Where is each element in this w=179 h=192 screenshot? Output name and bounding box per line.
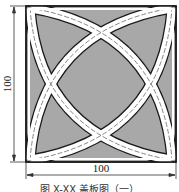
width-label: 100 (93, 162, 110, 174)
height-label: 100 (1, 75, 13, 92)
drawing: 100 100 (0, 0, 179, 192)
figure-caption: 图 X-XX 盖板图（一） (0, 181, 179, 192)
